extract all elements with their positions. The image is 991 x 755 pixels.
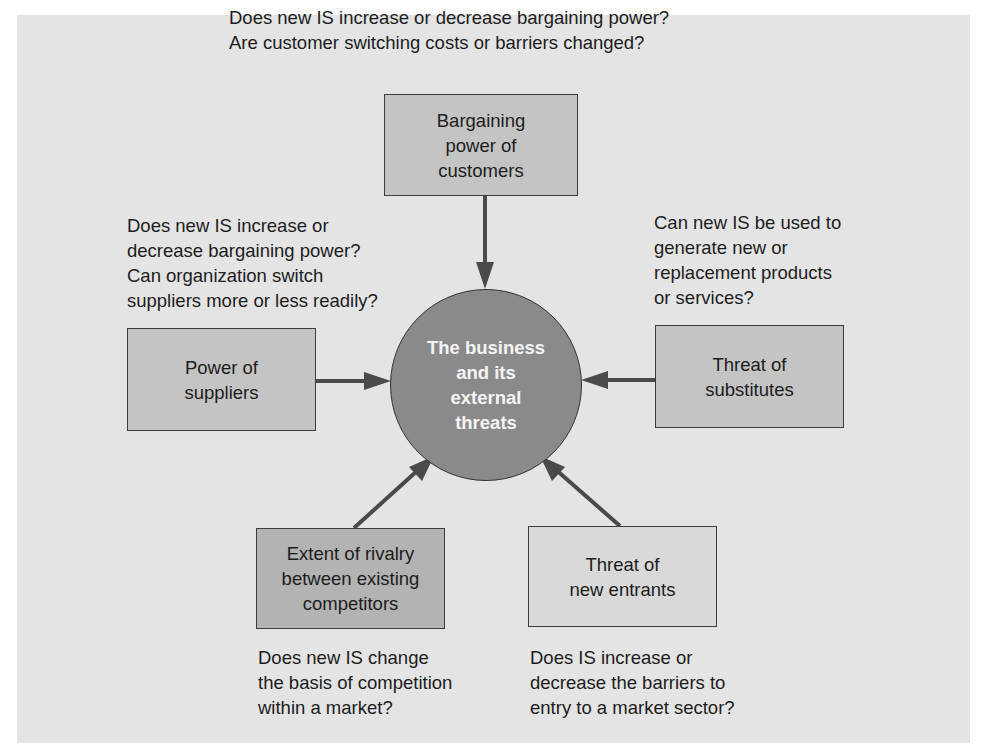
question-new-entrants: Does IS increase or decrease the barrier… bbox=[530, 645, 735, 720]
question-rivalry: Does new IS change the basis of competit… bbox=[258, 645, 452, 720]
question-line: replacement products bbox=[654, 260, 841, 285]
question-line: within a market? bbox=[258, 695, 452, 720]
box-label: Bargaining power of customers bbox=[437, 108, 525, 183]
question-line: Are customer switching costs or barriers… bbox=[229, 30, 669, 55]
center-label: The business and its external threats bbox=[427, 335, 545, 435]
question-line: decrease the barriers to bbox=[530, 670, 735, 695]
box-bargaining-power-of-customers: Bargaining power of customers bbox=[384, 94, 578, 196]
arrowhead-left bbox=[364, 372, 391, 390]
question-line: Can new IS be used to bbox=[654, 210, 841, 235]
question-line: the basis of competition bbox=[258, 670, 452, 695]
box-label: Threat of substitutes bbox=[705, 352, 793, 402]
question-line: decrease bargaining power? bbox=[127, 238, 378, 263]
arrowhead-right bbox=[581, 371, 608, 389]
question-customers: Does new IS increase or decrease bargain… bbox=[229, 5, 669, 55]
question-line: or services? bbox=[654, 285, 841, 310]
question-line: Does new IS change bbox=[258, 645, 452, 670]
box-threat-of-new-entrants: Threat of new entrants bbox=[528, 526, 717, 627]
question-line: entry to a market sector? bbox=[530, 695, 735, 720]
question-line: Does IS increase or bbox=[530, 645, 735, 670]
box-label: Extent of rivalry between existing compe… bbox=[282, 541, 420, 616]
box-power-of-suppliers: Power of suppliers bbox=[127, 328, 316, 431]
question-line: Does new IS increase or bbox=[127, 213, 378, 238]
question-line: Does new IS increase or decrease bargain… bbox=[229, 5, 669, 30]
arrowhead-top bbox=[476, 262, 494, 289]
question-suppliers: Does new IS increase or decrease bargain… bbox=[127, 213, 378, 313]
question-substitutes: Can new IS be used to generate new or re… bbox=[654, 210, 841, 310]
center-circle-business: The business and its external threats bbox=[390, 289, 582, 481]
question-line: generate new or bbox=[654, 235, 841, 260]
box-label: Power of suppliers bbox=[184, 355, 258, 405]
question-line: Can organization switch bbox=[127, 263, 378, 288]
box-label: Threat of new entrants bbox=[570, 552, 676, 602]
box-extent-of-rivalry: Extent of rivalry between existing compe… bbox=[256, 528, 445, 629]
question-line: suppliers more or less readily? bbox=[127, 288, 378, 313]
box-threat-of-substitutes: Threat of substitutes bbox=[655, 325, 844, 428]
